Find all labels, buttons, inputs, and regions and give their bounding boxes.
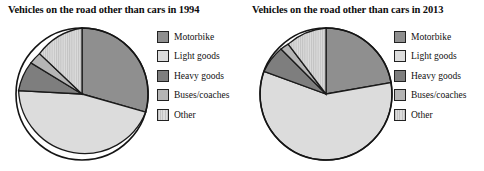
chart-panel-2013: Vehicles on the road other than cars in … bbox=[242, 0, 484, 171]
legend-swatch-buses-coaches-icon bbox=[394, 89, 406, 101]
pie-svg-1994 bbox=[12, 24, 152, 164]
page-title-2013: Vehicles on the road other than cars in … bbox=[252, 4, 443, 15]
legend-swatch-heavy-goods-icon bbox=[157, 70, 169, 82]
legend-item-heavy-goods: Heavy goods bbox=[394, 66, 480, 86]
legend-item-buses-coaches: Buses/coaches bbox=[394, 86, 480, 106]
legend-label-buses-coaches: Buses/coaches bbox=[411, 90, 466, 100]
legend-label-light-goods: Light goods bbox=[174, 51, 220, 61]
legend-item-motorbike: Motorbike bbox=[157, 27, 243, 47]
legend-item-buses-coaches: Buses/coaches bbox=[157, 86, 243, 106]
legend-2013: Motorbike Light goods Heavy goods Buses/… bbox=[394, 27, 480, 125]
legend-1994: Motorbike Light goods Heavy goods Buses/… bbox=[157, 27, 243, 125]
legend-item-light-goods: Light goods bbox=[394, 47, 480, 67]
legend-item-light-goods: Light goods bbox=[157, 47, 243, 67]
legend-swatch-other-icon bbox=[394, 109, 406, 121]
legend-label-motorbike: Motorbike bbox=[174, 32, 214, 42]
legend-label-other: Other bbox=[174, 110, 196, 120]
legend-item-motorbike: Motorbike bbox=[394, 27, 480, 47]
pie-chart-2013 bbox=[256, 24, 396, 164]
legend-label-heavy-goods: Heavy goods bbox=[411, 71, 461, 81]
legend-swatch-light-goods-icon bbox=[394, 50, 406, 62]
legend-item-heavy-goods: Heavy goods bbox=[157, 66, 243, 86]
pie-svg-2013 bbox=[256, 24, 396, 164]
legend-label-buses-coaches: Buses/coaches bbox=[174, 90, 229, 100]
legend-swatch-motorbike-icon bbox=[157, 31, 169, 43]
legend-swatch-other-icon bbox=[157, 109, 169, 121]
legend-swatch-buses-coaches-icon bbox=[157, 89, 169, 101]
legend-label-motorbike: Motorbike bbox=[411, 32, 451, 42]
legend-swatch-motorbike-icon bbox=[394, 31, 406, 43]
legend-label-heavy-goods: Heavy goods bbox=[174, 71, 224, 81]
legend-item-other: Other bbox=[157, 105, 243, 125]
two-pie-chart-figure: Vehicles on the road other than cars in … bbox=[0, 0, 484, 171]
chart-panel-1994: Vehicles on the road other than cars in … bbox=[0, 0, 242, 171]
legend-swatch-heavy-goods-icon bbox=[394, 70, 406, 82]
page-title-1994: Vehicles on the road other than cars in … bbox=[8, 4, 199, 15]
legend-label-light-goods: Light goods bbox=[411, 51, 457, 61]
legend-item-other: Other bbox=[394, 105, 480, 125]
pie-chart-1994 bbox=[12, 24, 152, 164]
legend-swatch-light-goods-icon bbox=[157, 50, 169, 62]
legend-label-other: Other bbox=[411, 110, 433, 120]
